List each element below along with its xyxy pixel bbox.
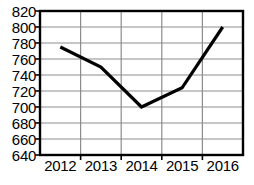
x-axis-tick-label: 2016 xyxy=(207,158,239,173)
data-series-line xyxy=(60,27,222,107)
x-axis-tick-label: 2015 xyxy=(166,158,198,173)
x-axis-tick-label: 2014 xyxy=(125,158,157,173)
line-chart: 640660680700720740760780800820 201220132… xyxy=(0,0,254,185)
x-axis-tick-labels: 20122013201420152016 xyxy=(0,158,254,180)
x-axis-tick-label: 2013 xyxy=(85,158,117,173)
plot-border xyxy=(40,11,243,155)
x-axis-tick-label: 2012 xyxy=(44,158,76,173)
